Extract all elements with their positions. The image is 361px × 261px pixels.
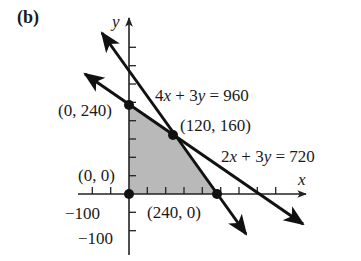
neg-x-tick-label: −100: [65, 204, 100, 223]
vertex-0-240: [124, 100, 134, 110]
x-axis-label: x: [297, 170, 306, 189]
graph-canvas: (b) y x (0, 240) (120, 160) (0, 0) (240,…: [0, 0, 361, 261]
equation-label-1: 4x + 3y = 960: [155, 86, 249, 105]
feasible-region-graph: (b) y x (0, 240) (120, 160) (0, 0) (240,…: [0, 0, 361, 261]
vertex-120-160: [168, 130, 178, 140]
vertex-0-0: [124, 189, 134, 199]
vertex-label-120-160: (120, 160): [180, 116, 251, 135]
vertex-240-0: [212, 189, 222, 199]
panel-label: (b): [17, 7, 39, 28]
vertex-label-240-0: (240, 0): [147, 203, 201, 222]
vertex-label-0-240: (0, 240): [58, 101, 112, 120]
y-axis-label: y: [110, 12, 120, 31]
neg-y-tick-label: −100: [78, 229, 113, 248]
equation-label-2: 2x + 3y = 720: [221, 147, 315, 166]
vertex-label-0-0: (0, 0): [78, 166, 115, 185]
